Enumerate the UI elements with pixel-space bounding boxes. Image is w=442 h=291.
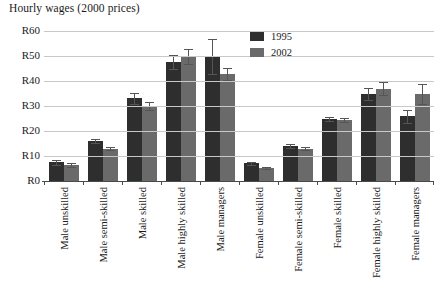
bar-rect xyxy=(88,141,103,181)
error-bar-cap xyxy=(325,117,334,118)
error-bar-cap xyxy=(91,139,100,140)
legend-item-2002: 2002 xyxy=(250,46,340,59)
x-axis-labels: Male unskilledMale semi-skilledMale skil… xyxy=(44,187,434,287)
legend-label-2002: 2002 xyxy=(271,47,292,58)
bar-rect xyxy=(181,56,196,181)
gridline xyxy=(44,31,434,32)
error-bar-cap xyxy=(145,102,154,103)
x-axis-label: Female unskilled xyxy=(253,187,264,259)
error-bar-cap xyxy=(340,118,349,119)
x-axis-tick xyxy=(200,181,201,185)
x-axis-tick xyxy=(44,181,45,185)
error-bar xyxy=(383,82,384,95)
x-axis-label-cell: Male unskilled xyxy=(44,187,83,287)
error-bar-cap xyxy=(130,93,139,94)
error-bar-cap xyxy=(364,100,373,101)
x-axis-tick xyxy=(161,181,162,185)
error-bar-cap xyxy=(145,110,154,111)
error-bar-cap xyxy=(247,165,256,166)
bar-rect xyxy=(322,119,337,182)
error-bar xyxy=(368,88,369,100)
error-bar-cap xyxy=(130,104,139,105)
x-axis-tick xyxy=(395,181,396,185)
bar-rect xyxy=(376,89,391,182)
x-axis-line xyxy=(42,181,434,182)
x-axis-tick xyxy=(356,181,357,185)
y-axis-tick-label: R30 xyxy=(0,99,40,111)
x-axis-label: Female skilled xyxy=(331,187,342,249)
error-bar-cap xyxy=(418,104,427,105)
x-axis-label: Female highly skilled xyxy=(370,187,381,278)
x-axis-label-cell: Male skilled xyxy=(122,187,161,287)
error-bar-cap xyxy=(169,69,178,70)
bar-rect xyxy=(205,56,220,181)
error-bar-cap xyxy=(184,49,193,50)
gridline xyxy=(44,156,434,157)
chart-container: Hourly wages (2000 prices) R60R50R40R30R… xyxy=(0,0,442,291)
x-axis-label: Female managers xyxy=(409,187,420,261)
y-axis-tick-label: R50 xyxy=(0,49,40,61)
gridline xyxy=(44,131,434,132)
x-axis-label: Male unskilled xyxy=(58,187,69,250)
bar-rect xyxy=(337,120,352,181)
error-bar-cap xyxy=(106,147,115,148)
gridline xyxy=(44,81,434,82)
error-bar-cap xyxy=(364,88,373,89)
error-bar-cap xyxy=(403,110,412,111)
bar-rect xyxy=(298,149,313,182)
bar-rect xyxy=(400,116,415,181)
legend-swatch-icon-2002 xyxy=(250,48,264,57)
error-bar-cap xyxy=(379,95,388,96)
x-axis-tick xyxy=(122,181,123,185)
y-axis-tick-label: R40 xyxy=(0,74,40,86)
legend-label-1995: 1995 xyxy=(271,31,292,42)
legend-item-1995: 1995 xyxy=(250,30,340,43)
x-axis-tick xyxy=(317,181,318,185)
error-bar-cap xyxy=(184,64,193,65)
error-bar-cap xyxy=(340,122,349,123)
x-axis-label-cell: Female skilled xyxy=(317,187,356,287)
chart-title: Hourly wages (2000 prices) xyxy=(9,2,140,14)
y-axis-tick-label: R0 xyxy=(0,174,40,186)
x-axis-tick xyxy=(239,181,240,185)
y-axis-tick-label: R20 xyxy=(0,124,40,136)
x-axis-label: Female semi-skilled xyxy=(292,187,303,272)
error-bar-cap xyxy=(301,147,310,148)
gridline xyxy=(44,106,434,107)
error-bar xyxy=(134,93,135,104)
legend-swatch-icon-1995 xyxy=(250,32,264,41)
bar-rect xyxy=(142,106,157,181)
error-bar-cap xyxy=(67,163,76,164)
bar-rect xyxy=(220,74,235,182)
error-bar xyxy=(422,84,423,104)
error-bar xyxy=(227,68,228,80)
x-axis-label: Male skilled xyxy=(136,187,147,239)
error-bar-cap xyxy=(52,160,61,161)
error-bar-cap xyxy=(52,165,61,166)
x-axis-label-cell: Male semi-skilled xyxy=(83,187,122,287)
x-axis-label: Male managers xyxy=(214,187,225,251)
error-bar-cap xyxy=(208,74,217,75)
error-bar-cap xyxy=(379,82,388,83)
y-axis-tick-label: R60 xyxy=(0,24,40,36)
gridline xyxy=(44,56,434,57)
bar-rect xyxy=(166,62,181,182)
error-bar-cap xyxy=(403,123,412,124)
bar-rect xyxy=(103,149,118,182)
error-bar-cap xyxy=(418,84,427,85)
error-bar-cap xyxy=(262,169,271,170)
error-bar-cap xyxy=(106,150,115,151)
error-bar-cap xyxy=(67,167,76,168)
x-axis-tick xyxy=(278,181,279,185)
x-axis-label-cell: Female semi-skilled xyxy=(278,187,317,287)
x-axis-tick xyxy=(433,181,434,185)
x-axis-label-cell: Male highly skilled xyxy=(161,187,200,287)
bar-rect xyxy=(127,98,142,181)
bar-rect xyxy=(244,163,259,181)
error-bar-cap xyxy=(286,148,295,149)
x-axis-label-cell: Female managers xyxy=(395,187,434,287)
y-axis-labels: R60R50R40R30R20R10R0 xyxy=(0,31,40,181)
error-bar xyxy=(407,110,408,123)
x-axis-label-cell: Female unskilled xyxy=(239,187,278,287)
error-bar-cap xyxy=(208,39,217,40)
